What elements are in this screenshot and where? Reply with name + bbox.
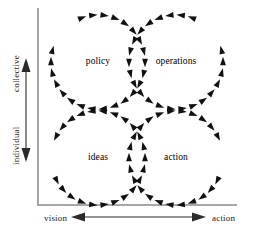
loop-arrowhead — [127, 69, 133, 78]
loop-arrowhead — [198, 115, 207, 122]
loop-arrowhead — [142, 69, 148, 78]
loop-arrowhead — [76, 104, 85, 110]
loop-arrowhead — [129, 185, 137, 193]
loop-arrowhead — [207, 123, 215, 131]
loop-arrowhead — [50, 68, 56, 77]
diagram-figure: collective individual vision action poli… — [0, 0, 255, 231]
loop-arrowhead — [126, 59, 132, 67]
loop-arrowhead — [189, 104, 198, 110]
loop-arrowhead — [154, 14, 163, 20]
loop-arrowhead — [100, 12, 109, 18]
loop-arrowhead — [140, 164, 146, 173]
loop-arrowhead — [155, 112, 164, 118]
loop-arrowhead — [59, 89, 67, 97]
vertical-measure-arrow — [22, 58, 31, 162]
loop-arrowhead — [59, 123, 67, 131]
loop-arrowhead — [137, 132, 143, 141]
loop-arrowhead — [128, 47, 134, 56]
loop-arrowhead — [67, 98, 76, 105]
loop-arrowhead — [126, 153, 132, 161]
loop-arrowhead — [214, 79, 220, 88]
loop-arrowhead — [127, 142, 133, 151]
loop-arrowhead — [142, 142, 148, 151]
axis-label-action: action — [212, 213, 235, 223]
loop-arrowhead — [214, 132, 220, 141]
horizontal-arrow-head-right — [192, 213, 206, 222]
vertical-arrow-head-down — [22, 148, 31, 162]
loop-arrowhead — [188, 198, 197, 204]
axis-frame — [38, 8, 237, 205]
loop-arrowhead — [129, 27, 137, 35]
loop-arrowhead — [49, 46, 55, 55]
vertical-arrow-head-up — [22, 58, 31, 72]
loop-arrowhead — [120, 194, 129, 201]
loop-arrowhead — [137, 123, 145, 131]
loop-arrowhead — [220, 57, 226, 65]
loop-arrowhead — [215, 176, 221, 185]
loop-arrowhead — [142, 59, 148, 67]
loop-arrowhead — [165, 12, 174, 18]
loop-label-policy: policy — [86, 56, 110, 66]
loop-arrowhead — [110, 112, 119, 118]
loop-arrowhead — [177, 13, 186, 19]
loop-arrowhead — [77, 198, 86, 204]
loop-arrowhead — [54, 79, 60, 88]
loop-arrowhead — [145, 96, 154, 103]
loop-arrowhead — [67, 192, 76, 199]
loop-arrowhead — [130, 123, 138, 131]
loop-label-ideas: ideas — [88, 152, 108, 162]
horizontal-arrow-head-left — [71, 213, 85, 222]
loop-label-operations: operations — [156, 56, 197, 66]
loop-arrowhead — [137, 89, 145, 97]
loop-arrowhead — [130, 80, 136, 89]
loop-arrowhead — [110, 102, 119, 108]
arrow-loops-layer — [48, 12, 226, 208]
loop-arrowhead — [120, 96, 129, 103]
loop-arrowhead — [145, 194, 154, 201]
loop-arrowhead — [137, 27, 145, 35]
axis-label-vision: vision — [44, 213, 68, 223]
axis-label-collective: collective — [11, 55, 21, 92]
loop-arrowhead — [128, 164, 134, 173]
horizontal-measure-arrow — [71, 213, 206, 222]
loop-arrowhead — [137, 80, 143, 89]
loop-arrowhead — [67, 115, 76, 122]
loop-arrowhead — [89, 13, 98, 19]
loop-arrowhead — [142, 153, 148, 161]
loop-arrowhead — [111, 14, 120, 20]
loop-arrowhead — [52, 176, 58, 185]
loop-arrowhead — [130, 89, 138, 97]
loop-arrowhead — [207, 89, 215, 97]
loop-arrowhead — [54, 132, 60, 141]
loop-arrowhead — [140, 47, 146, 56]
loop-arrowhead — [59, 185, 67, 193]
loop-arrowhead — [120, 19, 129, 26]
loop-arrowhead — [130, 132, 136, 141]
loop-arrowhead — [48, 57, 54, 65]
loop-arrowhead — [208, 185, 216, 193]
loop-arrowhead — [77, 16, 86, 22]
loop-arrowhead — [137, 185, 145, 193]
quadrant-diagram-canvas: collective individual vision action poli… — [0, 0, 255, 231]
loop-arrowhead — [198, 192, 207, 199]
loop-arrowhead — [76, 110, 85, 116]
loop-arrowhead — [218, 68, 224, 77]
loop-arrowhead — [120, 116, 129, 123]
loop-arrowhead — [220, 46, 226, 55]
loop-arrowhead — [145, 116, 154, 123]
loop-arrowhead — [145, 19, 154, 26]
axis-label-individual: individual — [11, 126, 21, 165]
loop-arrowhead — [198, 98, 207, 105]
loop-arrowhead — [189, 110, 198, 116]
loop-label-action: action — [164, 152, 188, 162]
axis-corner-line — [38, 8, 237, 205]
loop-arrowhead — [188, 16, 197, 22]
loop-arrowhead — [155, 102, 164, 108]
